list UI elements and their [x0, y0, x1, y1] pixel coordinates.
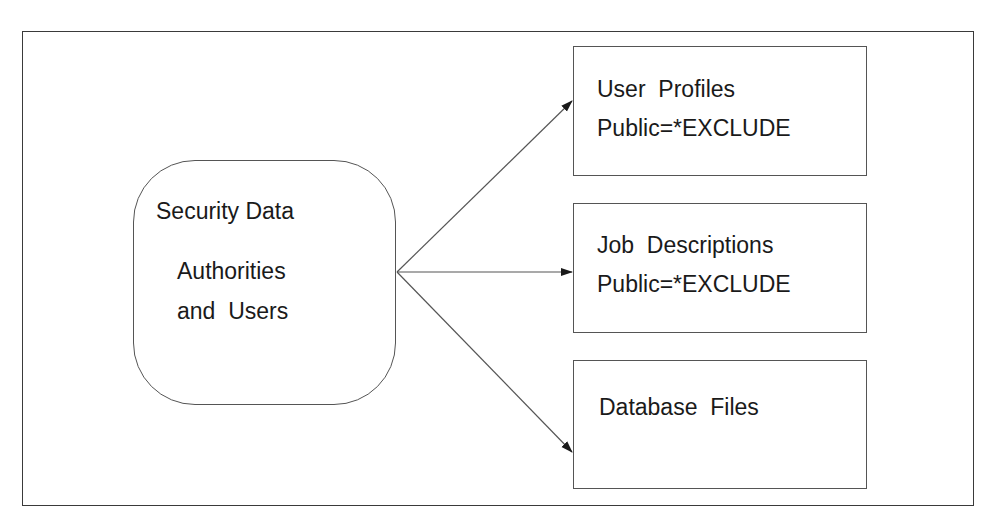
edge-to-user-profiles	[397, 101, 572, 272]
edge-to-database-files	[397, 272, 572, 452]
arrows-layer	[0, 0, 996, 530]
